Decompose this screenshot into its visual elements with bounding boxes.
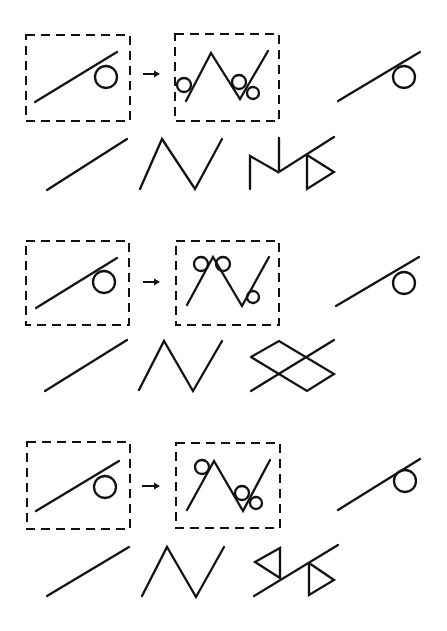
arrow-icon [142, 483, 160, 490]
option-stroke [45, 340, 127, 391]
source-figure [26, 241, 129, 325]
source-line [35, 52, 117, 102]
source-circle [93, 271, 115, 293]
option-zigzag [142, 547, 224, 597]
panel-3 [27, 442, 420, 597]
analogy-diagram [0, 0, 447, 631]
target-zigzag [186, 51, 268, 101]
option-stroke [139, 341, 222, 391]
source-line [36, 461, 119, 511]
source-figure [27, 442, 130, 529]
source-figure [26, 35, 130, 121]
option-zigzag [139, 341, 222, 391]
target-circle [194, 257, 208, 271]
option-stroke [255, 548, 280, 578]
target-figure [175, 34, 279, 121]
option-line [47, 547, 129, 596]
panels-container [26, 34, 420, 597]
arrow-icon [143, 279, 160, 286]
query-circle [393, 272, 415, 294]
target-circle [250, 497, 262, 509]
target-zigzag [187, 460, 270, 511]
source-circle [94, 476, 116, 498]
query-circle [394, 470, 416, 492]
target-figure [176, 241, 279, 325]
arrow-icon [143, 71, 160, 78]
source-dashed-box [26, 35, 130, 121]
panel-2 [26, 241, 419, 391]
option-line [45, 340, 127, 391]
option-diamonds [251, 340, 334, 391]
target-circle [177, 78, 191, 92]
options-row [47, 545, 338, 597]
option-line [47, 139, 127, 190]
target-figure [176, 443, 280, 528]
option-stroke [47, 139, 127, 190]
target-circle [235, 486, 249, 500]
target-circle [247, 87, 259, 99]
query-figure [338, 52, 420, 101]
target-circle [232, 75, 246, 89]
target-circle [247, 291, 259, 303]
option-m-triangle [250, 137, 334, 189]
query-line [336, 257, 419, 306]
option-zigzag [140, 139, 222, 189]
query-circle [393, 66, 415, 88]
target-zigzag [187, 257, 269, 306]
option-stroke [307, 155, 334, 189]
option-double-triangle [254, 545, 338, 596]
query-figure [338, 459, 420, 510]
target-circle [195, 460, 209, 474]
options-row [45, 340, 334, 391]
source-line [36, 258, 117, 308]
query-figure [336, 257, 419, 306]
option-stroke [309, 563, 334, 595]
query-line [338, 459, 420, 510]
panel-1 [26, 34, 420, 190]
option-stroke [250, 156, 278, 189]
option-stroke [47, 547, 129, 596]
options-row [47, 137, 334, 190]
option-stroke [140, 139, 222, 189]
source-circle [95, 66, 117, 88]
option-stroke [142, 547, 224, 597]
query-line [338, 52, 420, 101]
